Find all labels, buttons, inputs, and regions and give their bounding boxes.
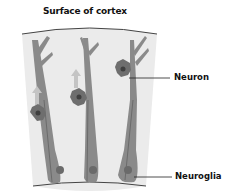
glia-nucleus-1 xyxy=(56,166,64,174)
glia-nucleus-3 xyxy=(124,166,132,174)
neuroglia-label: Neuroglia xyxy=(175,171,222,181)
glia-nucleus-2 xyxy=(89,166,97,174)
cortex-diagram xyxy=(0,0,225,192)
neuron-label: Neuron xyxy=(174,72,209,82)
